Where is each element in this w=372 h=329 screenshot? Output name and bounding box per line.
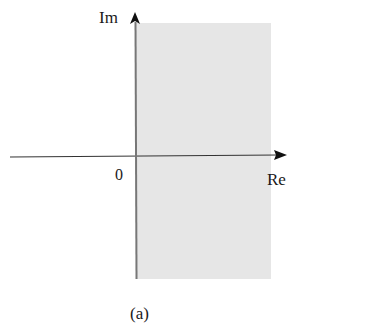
complex-plane-diagram: Im 0 Re (a)	[0, 0, 372, 329]
imaginary-axis	[136, 22, 137, 279]
real-axis-label: Re	[267, 171, 286, 188]
imaginary-axis-label: Im	[99, 9, 118, 26]
shaded-right-half-plane	[136, 23, 271, 279]
diagram-graphic	[0, 0, 372, 329]
origin-label: 0	[115, 167, 123, 183]
figure-caption: (a)	[130, 305, 149, 322]
